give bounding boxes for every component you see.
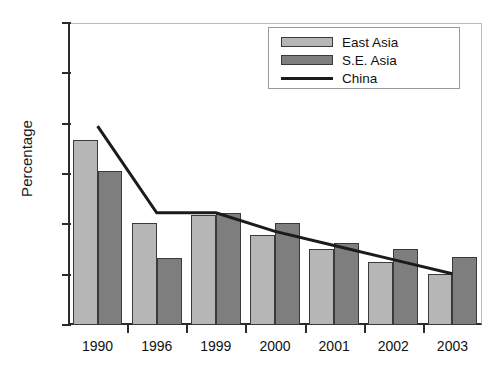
y-tick-mark xyxy=(62,324,71,326)
x-tick-mark xyxy=(245,323,247,333)
bar xyxy=(216,213,241,325)
legend-swatch-east-asia xyxy=(281,37,333,47)
legend-item-se-asia: S.E. Asia xyxy=(269,51,459,69)
bar xyxy=(452,257,477,325)
y-axis-title: Percentage xyxy=(18,89,35,229)
legend-item-china: China xyxy=(269,69,459,87)
bar xyxy=(98,171,123,325)
x-tick-mark xyxy=(364,323,366,333)
legend-label-east-asia: East Asia xyxy=(342,35,398,50)
bar xyxy=(250,235,275,325)
bar xyxy=(309,249,334,325)
legend-swatch-se-asia xyxy=(281,55,333,65)
bar xyxy=(368,262,393,325)
bar xyxy=(132,223,157,325)
legend-item-east-asia: East Asia xyxy=(269,33,459,51)
bar xyxy=(334,243,359,325)
x-tick-mark xyxy=(423,323,425,333)
x-tick-mark xyxy=(305,323,307,333)
legend-label-china: China xyxy=(342,71,377,86)
bar xyxy=(73,140,98,325)
y-tick-mark xyxy=(62,223,71,225)
chart-legend: East Asia S.E. Asia China xyxy=(268,27,460,89)
y-tick-mark xyxy=(62,274,71,276)
legend-swatch-china xyxy=(281,73,333,83)
bar xyxy=(393,249,418,325)
y-tick-mark xyxy=(62,22,71,24)
y-tick-mark xyxy=(62,72,71,74)
y-tick-mark xyxy=(62,173,71,175)
x-tick-label: 2003 xyxy=(417,338,487,354)
legend-label-se-asia: S.E. Asia xyxy=(342,53,397,68)
y-tick-mark xyxy=(62,123,71,125)
chart-container: Percentage 30.040.050.060.070.080.090.0 … xyxy=(0,0,494,371)
bar xyxy=(157,258,182,325)
x-tick-mark xyxy=(127,323,129,333)
bar xyxy=(275,223,300,325)
bar xyxy=(428,274,453,325)
x-tick-mark xyxy=(186,323,188,333)
bar xyxy=(191,215,216,325)
